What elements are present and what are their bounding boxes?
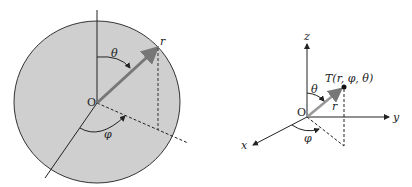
point-label: T(r, φ, θ) — [325, 72, 373, 85]
spherical-coordinates-figure: O θ φ r z y x T(r, φ, θ) θ φ r O — [0, 0, 412, 187]
sphere-diagram: O θ φ r — [14, 10, 188, 183]
radius-label: r — [332, 100, 338, 113]
x-label: x — [241, 139, 248, 152]
y-label: y — [392, 111, 400, 124]
origin-label: O — [87, 96, 96, 109]
phi-label: φ — [304, 132, 312, 145]
point-t — [342, 85, 347, 90]
x-axis — [253, 117, 307, 145]
z-label: z — [303, 30, 310, 43]
projection-dashed-line — [307, 117, 344, 146]
phi-arc — [292, 125, 319, 131]
radius-label: r — [160, 35, 166, 48]
origin-label: O — [297, 106, 306, 119]
coordinate-axes-diagram: z y x T(r, φ, θ) θ φ r O — [241, 30, 400, 152]
theta-label: θ — [311, 83, 318, 96]
phi-label: φ — [104, 128, 112, 141]
theta-label: θ — [111, 47, 118, 60]
